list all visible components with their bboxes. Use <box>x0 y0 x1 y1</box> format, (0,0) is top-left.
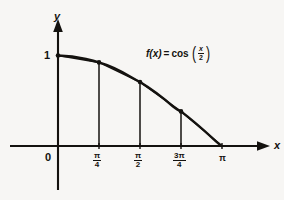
x-tick-pi-over-4-denominator: 4 <box>93 161 101 169</box>
formula-equals: = <box>164 48 170 59</box>
x-tick-pi-over-2-denominator: 2 <box>134 161 142 169</box>
node-dot-pi-over-2 <box>138 80 143 85</box>
formula-lhs: f(x) <box>146 48 162 59</box>
x-axis-arrowhead <box>257 141 270 151</box>
formula-arg-numerator: x <box>198 45 204 53</box>
x-tick-label-pi-over-4: π 4 <box>93 152 101 170</box>
plot-area <box>0 0 284 200</box>
node-dot-pi-over-4 <box>97 60 102 65</box>
node-dot-0 <box>56 53 61 58</box>
formula-arg-denominator: 2 <box>198 54 204 61</box>
trapezoidal-rule-figure: y x 1 0 π 4 π 2 3π 4 π f(x) = cos ( x 2 <box>0 0 284 200</box>
y-axis-label: y <box>54 11 60 22</box>
function-formula-annotation: f(x) = cos ( x 2 ) <box>146 45 211 61</box>
node-dot-3pi-over-4 <box>179 109 184 114</box>
y-tick-label-1: 1 <box>44 50 50 61</box>
formula-operator: cos <box>171 48 188 59</box>
x-tick-label-pi: π <box>219 154 226 163</box>
formula-left-paren: ( <box>192 45 196 61</box>
formula-right-paren: ) <box>206 45 210 61</box>
x-tick-label-3pi-over-4: 3π 4 <box>173 152 186 170</box>
x-tick-3pi-over-4-denominator: 4 <box>173 161 186 169</box>
formula-argument-fraction: x 2 <box>198 45 204 61</box>
origin-label: 0 <box>45 152 51 163</box>
x-axis-label: x <box>274 140 280 151</box>
x-tick-label-pi-over-2: π 2 <box>134 152 142 170</box>
